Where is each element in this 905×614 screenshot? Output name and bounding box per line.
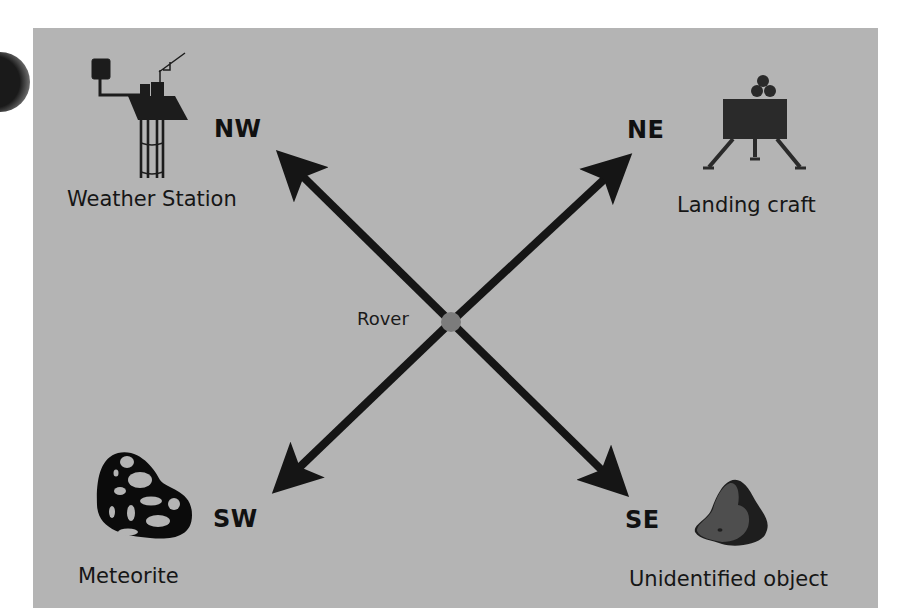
target-label-unidentified-object: Unidentified object <box>629 567 828 591</box>
direction-label-nw: NW <box>214 115 262 143</box>
target-label-weather-station: Weather Station <box>67 187 237 211</box>
arrow-se <box>451 322 622 490</box>
landing-craft-icon <box>703 75 806 168</box>
rover-label: Rover <box>357 308 409 329</box>
direction-label-se: SE <box>625 506 660 534</box>
arrow-nw <box>283 157 451 322</box>
weather-station-icon <box>92 53 188 178</box>
arrow-sw <box>279 322 451 487</box>
compass-arrows <box>0 0 905 614</box>
direction-label-ne: NE <box>627 116 664 144</box>
direction-label-sw: SW <box>213 505 258 533</box>
meteorite-icon <box>97 452 192 538</box>
rover-marker-icon <box>441 312 461 332</box>
arrow-ne <box>451 160 625 322</box>
unidentified-object-icon <box>695 480 768 546</box>
target-label-meteorite: Meteorite <box>78 564 179 588</box>
target-label-landing-craft: Landing craft <box>677 193 816 217</box>
